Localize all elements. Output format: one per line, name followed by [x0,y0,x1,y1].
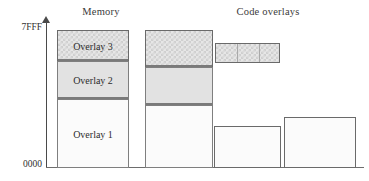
code-overlay-block-dotted [215,43,280,63]
axis-label-bottom: 0000 [0,159,42,169]
memory-block-overlay-1: Overlay 1 [57,99,129,168]
resident-block-bottom [145,105,213,168]
memory-block-overlay-2: Overlay 2 [57,61,129,99]
resident-block-middle [145,67,213,105]
code-overlay-block-right [284,117,356,168]
memory-block-overlay-2-label: Overlay 2 [58,75,128,86]
resident-block-top [145,30,213,67]
overlay-divider [259,44,260,62]
code-overlays-title: Code overlays [222,6,314,17]
memory-block-overlay-3: Overlay 3 [57,30,129,61]
code-overlay-block-left [214,126,281,168]
axis-label-top: 7FFF [0,22,42,32]
overlay-divider [237,44,238,62]
overlay-memory-diagram: Memory Code overlays 7FFF 0000 Overlay 3… [0,0,369,181]
memory-block-overlay-1-label: Overlay 1 [58,128,128,139]
vertical-axis-line [46,22,47,168]
memory-column-title: Memory [70,6,132,17]
memory-block-overlay-3-label: Overlay 3 [58,40,128,51]
